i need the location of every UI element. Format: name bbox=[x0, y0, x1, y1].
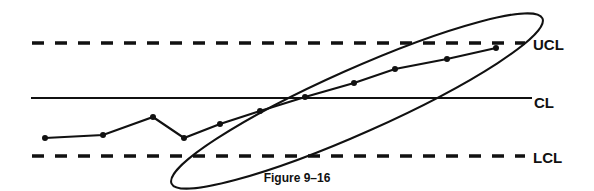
data-point bbox=[392, 66, 398, 72]
data-series bbox=[42, 45, 499, 141]
lcl-label: LCL bbox=[533, 149, 562, 166]
data-point bbox=[302, 94, 308, 100]
cl-label: CL bbox=[534, 94, 554, 111]
data-point bbox=[150, 114, 156, 120]
data-point bbox=[100, 132, 106, 138]
data-point bbox=[493, 45, 499, 51]
control-chart: UCL CL LCL bbox=[0, 0, 594, 191]
ucl-label: UCL bbox=[533, 36, 564, 53]
series-line bbox=[45, 48, 496, 138]
data-point bbox=[42, 135, 48, 141]
figure-caption: Figure 9–16 bbox=[0, 171, 594, 185]
data-point bbox=[217, 121, 223, 127]
data-point bbox=[444, 56, 450, 62]
data-point bbox=[181, 135, 187, 141]
data-point bbox=[351, 80, 357, 86]
trend-ellipse bbox=[159, 0, 556, 191]
